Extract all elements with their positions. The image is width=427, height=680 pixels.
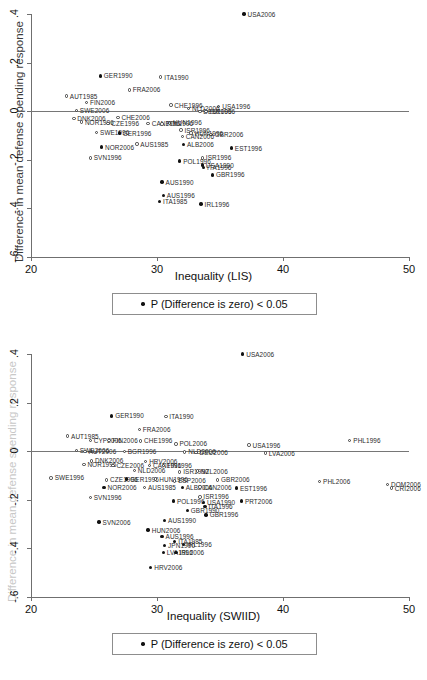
data-point-label: GBR1996 [216, 171, 245, 178]
data-point [123, 450, 126, 453]
data-point-label: PRT2006 [245, 498, 273, 505]
data-point-label: GBR2006 [215, 131, 244, 138]
y-tick [27, 111, 31, 112]
data-point [186, 509, 189, 512]
data-point [66, 434, 69, 437]
y-tick [27, 548, 31, 549]
data-point [65, 94, 68, 97]
data-point [162, 551, 165, 554]
data-point [183, 450, 186, 453]
x-tick-label: 40 [268, 263, 298, 275]
data-point [163, 544, 166, 547]
data-point-label: JPN1990 [168, 542, 195, 549]
data-point [102, 486, 105, 489]
data-point [178, 470, 181, 473]
legend-label: P (Difference is zero) < 0.05 [151, 638, 288, 650]
y-tick-label: -.4 [9, 535, 20, 561]
legend-lis: P (Difference is zero) < 0.05 [112, 293, 317, 315]
x-tick-label: 30 [142, 603, 172, 615]
x-tick [31, 597, 32, 601]
data-point-label: NLD2006 [138, 467, 166, 474]
y-tick-label: -.6 [9, 244, 20, 270]
data-point-label: LVA2006 [269, 450, 295, 457]
data-point-label: CZE1996 [111, 120, 139, 127]
data-point [390, 486, 393, 489]
data-point [99, 74, 102, 77]
legend-label: P (Difference is zero) < 0.05 [151, 298, 288, 310]
data-point [202, 166, 205, 169]
y-tick-label: -.2 [9, 146, 20, 172]
data-point-label: SWE1996 [55, 474, 84, 481]
data-point [158, 200, 161, 203]
data-point-label: GER1990 [104, 72, 133, 79]
y-axis [31, 354, 32, 597]
data-point [89, 439, 92, 442]
data-point-label: FRA2006 [133, 86, 161, 93]
data-point [105, 478, 108, 481]
data-point [82, 463, 85, 466]
x-tick [409, 597, 410, 601]
x-tick [157, 257, 158, 261]
y-tick-label: .4 [9, 341, 20, 367]
y-tick-label: -.6 [9, 584, 20, 610]
x-tick [283, 257, 284, 261]
data-point [172, 499, 175, 502]
y-tick [27, 500, 31, 501]
data-point [146, 528, 149, 531]
data-point-label: DEU2006 [200, 449, 228, 456]
data-point-label: AUS1985 [148, 484, 176, 491]
data-point-label: FIN2006 [90, 99, 115, 106]
y-tick-label: .4 [9, 1, 20, 27]
data-point [160, 122, 163, 125]
x-tick [283, 597, 284, 601]
data-point-label: AUS1990 [166, 179, 194, 186]
data-point [118, 131, 121, 134]
plot-area-swiid: USA2006GER1990ITA1990FRA2006AUT1985CYP20… [31, 354, 409, 597]
data-point-label: GER1996 [123, 130, 152, 137]
data-point-label: ITA1990 [164, 74, 188, 81]
data-point-label: ALB2006 [187, 141, 214, 148]
data-point [162, 194, 165, 197]
y-tick [27, 597, 31, 598]
data-point-label: USA2006 [247, 11, 275, 18]
data-point-label: BGR1996 [128, 448, 157, 455]
data-point-label: FIN2006 [113, 437, 138, 444]
x-tick-label: 20 [16, 263, 46, 275]
data-point [149, 566, 152, 569]
chart-panel-lis: Difference in mean defense spending resp… [0, 0, 427, 340]
data-point [348, 439, 351, 442]
plot-area-lis: USA2006GER1990ITA1990FRA2006AUT1985FIN20… [31, 14, 409, 257]
data-point-label: AUS1985 [140, 141, 168, 148]
data-point-label: POL1996 [177, 498, 205, 505]
data-point [160, 180, 163, 183]
data-point [107, 439, 110, 442]
y-tick [27, 208, 31, 209]
data-point-label: USA1996 [252, 442, 280, 449]
y-axis [31, 14, 32, 257]
data-point-label: NOR2006 [108, 484, 137, 491]
data-point-label: IRL2006 [179, 549, 204, 556]
y-tick [27, 14, 31, 15]
data-point [159, 75, 162, 78]
data-point-label: ITA1990 [169, 413, 193, 420]
data-point-label: USA2006 [246, 351, 274, 358]
x-axis [31, 257, 409, 258]
data-point [83, 450, 86, 453]
data-point [89, 156, 92, 159]
data-point-label: CAN2006 [186, 133, 214, 140]
legend-swiid: P (Difference is zero) < 0.05 [112, 633, 317, 655]
data-point-label: SWE2006 [80, 107, 109, 114]
data-point [146, 122, 149, 125]
y-tick [27, 451, 31, 452]
x-tick-label: 50 [394, 263, 424, 275]
data-point [95, 131, 98, 134]
data-point [143, 486, 146, 489]
data-point-label: PHL1996 [353, 437, 380, 444]
data-point [138, 428, 141, 431]
data-point-label: GBR2006 [221, 476, 250, 483]
x-tick-label: 20 [16, 603, 46, 615]
legend-marker-icon [141, 302, 144, 305]
data-point-label: ITA1996 [207, 164, 231, 171]
data-point [169, 103, 172, 106]
data-point [160, 535, 163, 538]
